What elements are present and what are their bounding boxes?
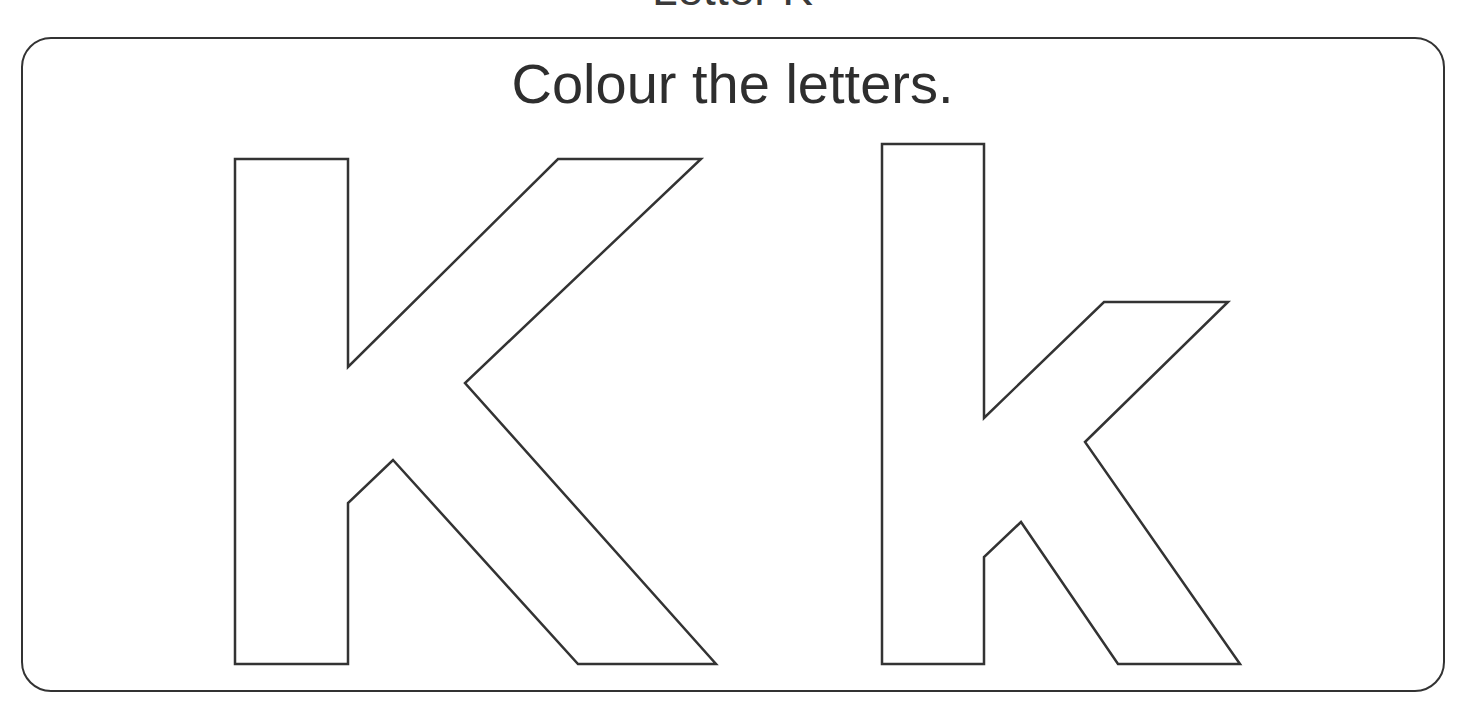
uppercase-k-outline[interactable] [235, 159, 716, 664]
lowercase-k-outline[interactable] [882, 144, 1240, 664]
letter-outlines [0, 0, 1465, 704]
